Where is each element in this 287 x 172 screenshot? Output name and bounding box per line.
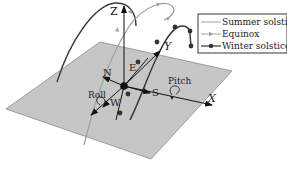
west-label: W (110, 97, 121, 108)
legend-label-equinox: Equinox (222, 29, 259, 39)
pitch-label: Pitch (168, 76, 192, 86)
north-label: N (103, 67, 112, 78)
east-label: E (129, 62, 136, 73)
legend-label-winter: Winter solstice (222, 41, 287, 51)
legend-label-summer: Summer solstice (222, 17, 287, 27)
south-label: S (152, 87, 159, 98)
z-axis-label: Z (110, 5, 118, 18)
legend: Summer solstice Equinox Winter solstice (198, 14, 287, 53)
roll-label: Roll (88, 90, 106, 100)
circle-marker-icon (209, 44, 213, 48)
equinox-markers (115, 3, 170, 32)
origin-point (120, 82, 128, 90)
x-axis-label: X (207, 92, 217, 105)
y-axis-label: Y (164, 40, 173, 53)
diagram-canvas: Z Y X N E S W Roll Pitch Summer solstice… (0, 0, 287, 172)
